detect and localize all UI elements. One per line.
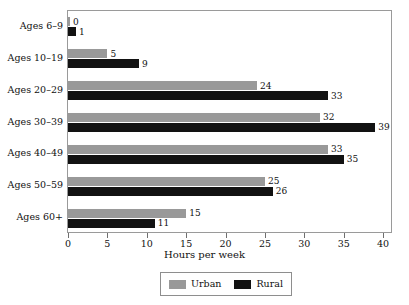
bar-urban (68, 113, 320, 122)
y-axis-label-2: Ages 10–19 (8, 53, 63, 63)
x-tick-label: 0 (65, 239, 71, 249)
legend-swatch-icon (169, 280, 186, 289)
x-axis-title: Hours per week (0, 250, 409, 260)
legend-swatch-icon (234, 280, 251, 289)
y-axis-label-7: Ages 60+ (16, 212, 63, 222)
bar-value-label: 35 (344, 155, 358, 164)
bar-value-label: 11 (155, 219, 169, 228)
y-axis-label-1: Ages 6–9 (20, 21, 63, 31)
bar-value-label: 26 (273, 187, 287, 196)
bar-value-label: 33 (328, 91, 342, 100)
bar-value-label: 0 (70, 17, 79, 26)
legend-entry-urban: Urban (169, 279, 221, 289)
bar-value-label: 33 (328, 145, 342, 154)
x-tick-label: 10 (141, 239, 153, 249)
bar-value-label: 15 (186, 209, 200, 218)
x-tick-label: 5 (104, 239, 110, 249)
bar-group: 3239 (68, 107, 391, 139)
bar-rural (68, 155, 344, 164)
bar-urban (68, 49, 107, 58)
x-tick-label: 30 (298, 239, 310, 249)
x-tick-label: 20 (220, 239, 232, 249)
bar-value-label: 25 (265, 177, 279, 186)
bar-value-label: 1 (76, 27, 85, 36)
y-axis-label-3: Ages 20–29 (8, 85, 63, 95)
x-axis-ticks: 0510152025303540 (67, 233, 392, 239)
bar-rural (68, 59, 139, 68)
bar-group: 2526 (68, 170, 391, 202)
bar-value-label: 39 (375, 123, 389, 132)
bar-urban (68, 177, 265, 186)
bar-value-label: 24 (257, 81, 271, 90)
bar-value-label: 9 (139, 59, 148, 68)
x-tick-label: 40 (377, 239, 389, 249)
bar-urban (68, 209, 186, 218)
chart-legend: UrbanRural (160, 272, 292, 296)
bar-rural (68, 187, 273, 196)
bar-urban (68, 145, 328, 154)
bar-rural (68, 219, 155, 228)
bar-value-label: 5 (107, 49, 116, 58)
bar-rural (68, 91, 328, 100)
legend-label: Rural (256, 279, 283, 289)
horizontal-bar-chart: Ages 6–9Ages 10–19Ages 20–29Ages 30–39Ag… (0, 0, 409, 305)
legend-entry-rural: Rural (234, 279, 283, 289)
legend-label: Urban (191, 279, 221, 289)
bar-rural (68, 123, 375, 132)
bar-group: 59 (68, 43, 391, 75)
y-axis-label-6: Ages 50–59 (8, 180, 63, 190)
bar-value-label: 32 (320, 113, 334, 122)
plot-area: 015924333239333525261511 (67, 10, 392, 233)
bar-group: 3335 (68, 138, 391, 170)
x-tick-label: 25 (259, 239, 271, 249)
x-tick-label: 35 (338, 239, 350, 249)
bar-group: 01 (68, 11, 391, 43)
y-axis-label-4: Ages 30–39 (8, 117, 63, 127)
x-tick-label: 15 (180, 239, 192, 249)
bar-group: 1511 (68, 202, 391, 234)
bar-group: 2433 (68, 75, 391, 107)
bar-urban (68, 81, 257, 90)
bar-rural (68, 27, 76, 36)
y-axis-label-5: Ages 40–49 (8, 148, 63, 158)
